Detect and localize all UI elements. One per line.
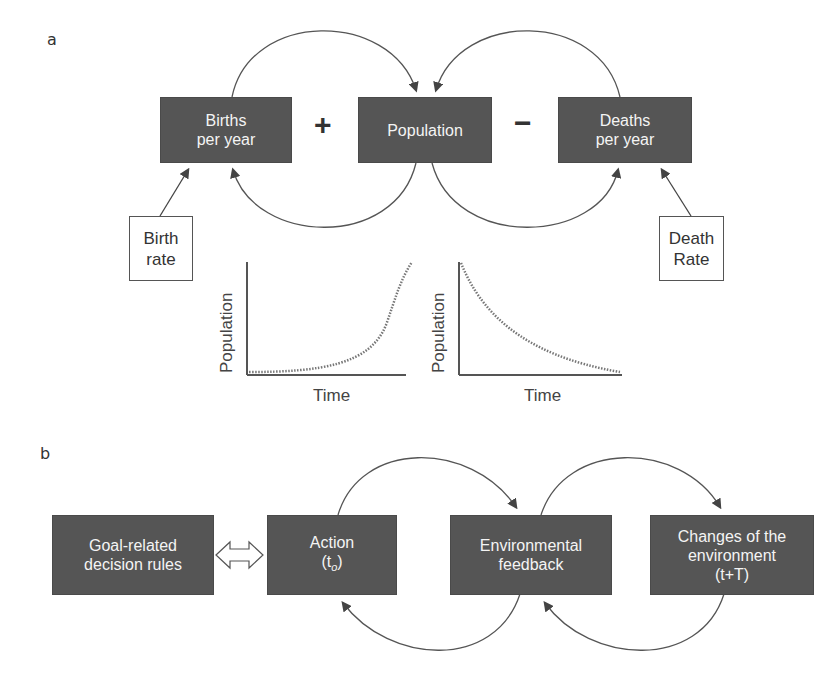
action-box: Action (to)	[267, 515, 397, 595]
birth-rate-box: Birth rate	[129, 216, 193, 281]
action-label: Action	[310, 533, 354, 552]
changes-environment-box: Changes of the environment (t+T)	[650, 515, 814, 595]
population-box: Population	[358, 97, 492, 163]
chart1-xlabel: Time	[313, 386, 350, 406]
deaths-per-year-box: Deaths per year	[558, 97, 692, 163]
chart1-ylabel: Population	[217, 293, 237, 373]
chart2-xlabel: Time	[524, 386, 561, 406]
births-per-year-box: Births per year	[160, 97, 292, 163]
goal-decision-rules-box: Goal-related decision rules	[52, 515, 214, 595]
panel-b-label: b	[40, 444, 50, 463]
death-rate-box: Death Rate	[659, 216, 724, 281]
plus-operator: +	[314, 108, 332, 142]
chart2-ylabel: Population	[429, 293, 449, 373]
action-time-label: (to)	[321, 552, 342, 577]
minus-operator: −	[514, 106, 532, 140]
environmental-feedback-box: Environmental feedback	[450, 515, 612, 595]
